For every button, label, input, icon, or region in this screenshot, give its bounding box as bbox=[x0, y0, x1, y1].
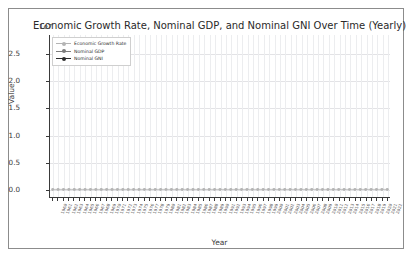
y-tick-label: 0.5 bbox=[0, 159, 20, 166]
data-point bbox=[154, 188, 157, 191]
data-point bbox=[278, 188, 281, 191]
data-point bbox=[213, 188, 216, 191]
x-tick-mark bbox=[160, 198, 161, 201]
x-tick-mark bbox=[84, 198, 85, 201]
data-point bbox=[245, 188, 248, 191]
x-tick-mark bbox=[355, 198, 356, 201]
legend-item[interactable]: Economic Growth Rate bbox=[56, 40, 126, 48]
x-tick-mark bbox=[312, 198, 313, 201]
data-point bbox=[262, 188, 265, 191]
x-tick-mark bbox=[344, 198, 345, 201]
data-point bbox=[116, 188, 119, 191]
data-point bbox=[197, 188, 200, 191]
data-point bbox=[94, 188, 97, 191]
x-tick-mark bbox=[133, 198, 134, 201]
x-tick-mark bbox=[387, 198, 388, 201]
data-point bbox=[138, 188, 141, 191]
data-point bbox=[89, 188, 92, 191]
legend-item[interactable]: Nominal GNI bbox=[56, 55, 126, 63]
x-tick-label: 2022 bbox=[395, 203, 403, 215]
data-point bbox=[127, 188, 130, 191]
legend-item[interactable]: Nominal GDP bbox=[56, 48, 126, 56]
x-tick-mark bbox=[73, 198, 74, 201]
x-tick-mark bbox=[90, 198, 91, 201]
x-tick-mark bbox=[127, 198, 128, 201]
x-tick-mark bbox=[236, 198, 237, 201]
x-tick-mark bbox=[257, 198, 258, 201]
legend-label: Nominal GNI bbox=[74, 56, 103, 61]
y-axis-label: Value bbox=[7, 83, 16, 104]
data-point bbox=[343, 188, 346, 191]
x-tick-mark bbox=[360, 198, 361, 201]
data-point bbox=[380, 188, 383, 191]
data-point bbox=[299, 188, 302, 191]
data-point bbox=[100, 188, 103, 191]
data-point bbox=[186, 188, 189, 191]
y-tick-label: 2.5 bbox=[0, 50, 20, 57]
x-tick-mark bbox=[339, 198, 340, 201]
legend-label: Economic Growth Rate bbox=[74, 41, 126, 46]
data-point bbox=[121, 188, 124, 191]
data-point bbox=[143, 188, 146, 191]
x-tick-mark bbox=[274, 198, 275, 201]
x-tick-mark bbox=[284, 198, 285, 201]
data-point bbox=[175, 188, 178, 191]
x-tick-mark bbox=[111, 198, 112, 201]
x-tick-mark bbox=[252, 198, 253, 201]
legend-label: Nominal GDP bbox=[74, 49, 104, 54]
data-point bbox=[332, 188, 335, 191]
x-tick-mark bbox=[382, 198, 383, 201]
data-point bbox=[84, 188, 87, 191]
x-tick-mark bbox=[322, 198, 323, 201]
data-point bbox=[256, 188, 259, 191]
x-tick-mark bbox=[220, 198, 221, 201]
data-point bbox=[305, 188, 308, 191]
data-point bbox=[51, 188, 54, 191]
data-point bbox=[73, 188, 76, 191]
series-economic-growth-rate bbox=[51, 188, 389, 191]
data-point bbox=[229, 188, 232, 191]
x-tick-mark bbox=[122, 198, 123, 201]
data-point bbox=[348, 188, 351, 191]
data-point bbox=[208, 188, 211, 191]
data-point bbox=[310, 188, 313, 191]
x-tick-mark bbox=[349, 198, 350, 201]
chart-legend[interactable]: Economic Growth RateNominal GDPNominal G… bbox=[52, 37, 131, 66]
x-tick-mark bbox=[295, 198, 296, 201]
x-tick-mark bbox=[176, 198, 177, 201]
legend-marker-icon bbox=[56, 48, 71, 55]
data-point bbox=[105, 188, 108, 191]
data-point bbox=[218, 188, 221, 191]
x-tick-mark bbox=[95, 198, 96, 201]
legend-marker-icon bbox=[56, 40, 71, 47]
x-tick-mark bbox=[209, 198, 210, 201]
data-point bbox=[267, 188, 270, 191]
data-point bbox=[364, 188, 367, 191]
x-tick-mark bbox=[165, 198, 166, 201]
x-tick-mark bbox=[68, 198, 69, 201]
data-point bbox=[67, 188, 70, 191]
x-tick-mark bbox=[279, 198, 280, 201]
data-point bbox=[359, 188, 362, 191]
x-axis-ticks: 1960196119621963196419651966196719681969… bbox=[49, 198, 390, 244]
x-tick-mark bbox=[290, 198, 291, 201]
y-tick-label: 2.0 bbox=[0, 77, 20, 84]
chart-title: Economic Growth Rate, Nominal GDP, and N… bbox=[9, 20, 403, 31]
x-tick-mark bbox=[247, 198, 248, 201]
data-point bbox=[337, 188, 340, 191]
x-tick-mark bbox=[63, 198, 64, 201]
data-point bbox=[132, 188, 135, 191]
data-point bbox=[370, 188, 373, 191]
x-tick-mark bbox=[317, 198, 318, 201]
y-axis-offset-text: 1e7 bbox=[39, 23, 52, 31]
data-point bbox=[170, 188, 173, 191]
x-tick-mark bbox=[100, 198, 101, 201]
data-point bbox=[235, 188, 238, 191]
data-point bbox=[78, 188, 81, 191]
data-point bbox=[251, 188, 254, 191]
data-point bbox=[316, 188, 319, 191]
data-point bbox=[386, 188, 389, 191]
y-tick-label: 1.5 bbox=[0, 104, 20, 111]
x-tick-mark bbox=[263, 198, 264, 201]
x-tick-mark bbox=[57, 198, 58, 201]
